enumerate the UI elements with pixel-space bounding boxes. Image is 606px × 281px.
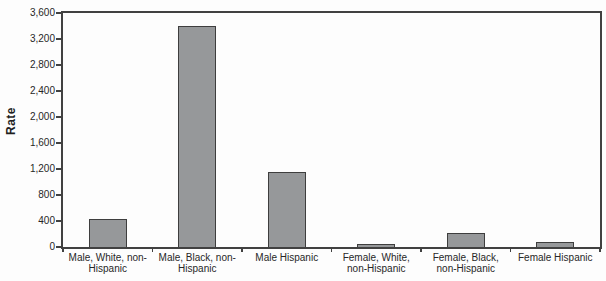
bar-2 (178, 26, 216, 247)
plot-area (61, 11, 602, 249)
y-tick-label: 3,200 (0, 34, 55, 44)
y-tick-label: 800 (0, 190, 55, 200)
bar-6 (536, 242, 574, 247)
y-tick-label: 1,600 (0, 138, 55, 148)
x-tick-mark (241, 247, 243, 252)
y-tick-label: 2,400 (0, 86, 55, 96)
y-tick-mark (56, 246, 61, 248)
x-tick-label: Male Hispanic (242, 252, 332, 263)
y-tick-mark (56, 90, 61, 92)
x-tick-label: Male, White, non- Hispanic (63, 252, 153, 274)
x-tick-mark (420, 247, 422, 252)
bar-1 (89, 219, 127, 247)
y-tick-mark (56, 64, 61, 66)
y-tick-label: 400 (0, 216, 55, 226)
y-tick-mark (56, 220, 61, 222)
y-tick-mark (56, 194, 61, 196)
y-tick-mark (56, 116, 61, 118)
x-tick-label: Female, White, non-Hispanic (332, 252, 422, 274)
x-tick-label: Female Hispanic (511, 252, 601, 263)
y-tick-label: 2,800 (0, 60, 55, 70)
x-tick-label: Female, Black, non-Hispanic (421, 252, 511, 274)
y-tick-label: 0 (0, 242, 55, 252)
y-tick-mark (56, 38, 61, 40)
y-tick-mark (56, 142, 61, 144)
y-tick-mark (56, 12, 61, 14)
bar-4 (357, 244, 395, 247)
y-tick-mark (56, 168, 61, 170)
bar-3 (268, 172, 306, 247)
x-tick-mark (331, 247, 333, 252)
y-tick-label: 1,200 (0, 164, 55, 174)
bar-5 (447, 233, 485, 247)
x-tick-mark (599, 247, 601, 252)
x-tick-label: Male, Black, non- Hispanic (153, 252, 243, 274)
y-tick-label: 3,600 (0, 8, 55, 18)
chart: Rate 04008001,2001,6002,0002,4002,8003,2… (0, 0, 606, 281)
x-tick-mark (510, 247, 512, 252)
x-tick-mark (152, 247, 154, 252)
x-tick-mark (62, 247, 64, 252)
y-tick-label: 2,000 (0, 112, 55, 122)
